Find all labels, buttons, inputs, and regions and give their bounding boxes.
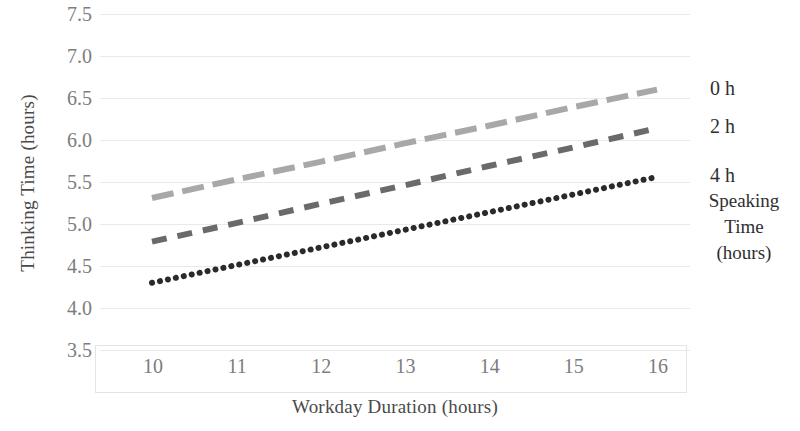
line-chart: Thinking Time (hours) 7.57.06.56.05.55.0…: [0, 0, 800, 431]
x-axis-tick-label: 15: [551, 355, 597, 378]
x-axis-tick-label: 11: [214, 355, 260, 378]
y-axis-tick-labels: 7.57.06.56.05.55.04.54.03.5: [42, 0, 92, 360]
y-axis-tick-label: 6.5: [46, 88, 92, 108]
plot-area: [100, 4, 690, 360]
y-axis-tick-label: 5.0: [46, 214, 92, 234]
legend-entry-2h: 2 h: [692, 115, 800, 138]
y-axis-title: Thinking Time (hours): [17, 13, 39, 353]
y-axis-tick-label: 3.5: [46, 340, 92, 360]
y-axis-tick-label: 7.5: [46, 4, 92, 24]
series-line-4h: [152, 177, 657, 283]
y-axis-tick-label: 5.5: [46, 172, 92, 192]
x-axis-tick-label: 10: [130, 355, 176, 378]
y-axis-tick-label: 4.0: [46, 298, 92, 318]
x-axis-tick-band: 10111213141516: [95, 345, 687, 393]
x-axis-tick-label: 13: [383, 355, 429, 378]
legend-title: Speaking Time (hours): [692, 188, 796, 266]
legend-entry-4h: 4 h: [692, 164, 800, 187]
x-axis-tick-label: 16: [635, 355, 681, 378]
legend: Speaking Time (hours) 0 h2 h4 h: [692, 60, 800, 290]
y-axis-tick-label: 4.5: [46, 256, 92, 276]
y-axis-tick-label: 6.0: [46, 130, 92, 150]
x-axis-title: Workday Duration (hours): [100, 396, 690, 418]
legend-title-line-2: Time: [692, 214, 796, 240]
legend-title-line-3: (hours): [692, 240, 796, 266]
x-axis-tick-label: 12: [298, 355, 344, 378]
y-axis-tick-label: 7.0: [46, 46, 92, 66]
series-line-0h: [152, 90, 657, 198]
legend-title-line-1: Speaking: [692, 188, 796, 214]
legend-entry-0h: 0 h: [692, 77, 800, 100]
x-axis-tick-label: 14: [467, 355, 513, 378]
series-layer: [100, 4, 690, 360]
